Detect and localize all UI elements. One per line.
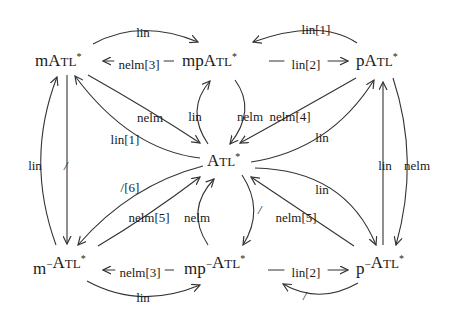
- node-mpmATL: mp−ATL*: [184, 253, 245, 278]
- edge-label-slash: /: [257, 202, 263, 217]
- edge-label: lin: [315, 182, 329, 197]
- edge-label: nelm[3]: [118, 57, 159, 72]
- edge-label: lin: [315, 130, 329, 145]
- edge-label: lin[1]: [302, 22, 331, 37]
- edge-label-slash: /: [302, 288, 308, 303]
- edge-mATL-to-ATL: [88, 75, 200, 143]
- edge-mmATL-to-mATL: [41, 77, 57, 245]
- edge-label: nelm[3]: [119, 265, 160, 280]
- edge-label: lin[1]: [111, 132, 140, 147]
- node-pmATL: p−ATL*: [356, 253, 404, 278]
- node-mpATL: mpATL*: [182, 51, 237, 70]
- edge-label: nelm[4]: [269, 109, 310, 124]
- node-pATL: pATL*: [356, 51, 398, 70]
- edge-label: nelm: [137, 110, 163, 125]
- edge-label: lin: [136, 290, 150, 305]
- edge-label: /[6]: [121, 180, 140, 195]
- edge-ATL-to-mpmATL: [242, 175, 254, 245]
- edge-label: lin: [28, 158, 42, 173]
- edge-label: nelm: [404, 158, 430, 173]
- edge-label: nelm: [237, 109, 263, 124]
- edge-label: lin: [378, 158, 392, 173]
- edge-label: lin[2]: [292, 57, 321, 72]
- edge-label-slash: /: [63, 158, 69, 173]
- edge-pmATL-to-mpmATL: [283, 283, 358, 294]
- edge-label: lin[2]: [292, 265, 321, 280]
- edge-label: lin: [188, 109, 202, 124]
- edge-ATL-to-pmATL: [255, 168, 376, 245]
- logic-translation-diagram: linnelm[3]lin[1]lin[2]nelmlin[1]linnelmn…: [0, 0, 454, 316]
- edge-label: nelm[5]: [128, 210, 169, 225]
- edge-label: nelm[5]: [275, 210, 316, 225]
- node-mATL: mATL*: [35, 51, 81, 70]
- node-mmATL: m−ATL*: [33, 253, 86, 278]
- edge-label: lin: [136, 25, 150, 40]
- edge-label: nelm: [184, 210, 210, 225]
- edge-ATL-to-mmATL: [78, 166, 203, 245]
- node-ATL: ATL*: [207, 151, 240, 170]
